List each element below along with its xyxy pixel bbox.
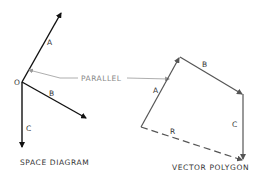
polygon-vector-a-arrow xyxy=(141,58,179,127)
space-diagram: O A B C SPACE DIAGRAM xyxy=(14,13,89,167)
vector-a-label: A xyxy=(47,38,53,47)
polygon-vector-c-label: C xyxy=(232,120,237,129)
polygon-vector-a-label: A xyxy=(153,86,159,95)
resultant-r-label: R xyxy=(170,127,175,136)
origin-label: O xyxy=(14,78,20,87)
parallel-leader-left xyxy=(29,70,60,78)
space-diagram-caption: SPACE DIAGRAM xyxy=(20,158,89,167)
vector-c-label: C xyxy=(26,124,31,133)
polygon-vector-b-label: B xyxy=(202,60,207,69)
vector-a-arrow xyxy=(22,13,61,82)
parallel-label: PARALLEL xyxy=(81,74,122,83)
resultant-r-arrow xyxy=(141,127,242,160)
parallel-leader-right xyxy=(127,78,169,79)
diagram-canvas: O A B C SPACE DIAGRAM PARALLEL A B C R V… xyxy=(0,0,272,177)
parallel-annotation: PARALLEL xyxy=(29,70,169,83)
vector-b-label: B xyxy=(49,89,54,98)
vector-b-arrow xyxy=(22,82,86,118)
vector-polygon-caption: VECTOR POLYGON xyxy=(172,163,249,172)
vector-polygon: A B C R VECTOR POLYGON xyxy=(141,57,249,172)
polygon-vector-b-arrow xyxy=(180,57,242,94)
